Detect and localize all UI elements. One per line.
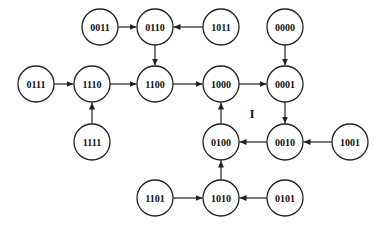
node-label: 0111 xyxy=(27,79,46,90)
state-node-1011: 1011 xyxy=(203,9,239,45)
node-label: 1110 xyxy=(83,79,102,90)
node-label: 0100 xyxy=(211,137,231,148)
node-label: 1101 xyxy=(145,193,164,204)
state-node-1000: 1000 xyxy=(203,66,239,102)
state-node-1101: 1101 xyxy=(137,180,173,216)
state-transition-diagram: 0011011010110000011111101100100000011111… xyxy=(0,0,374,225)
state-node-0110: 0110 xyxy=(137,9,173,45)
state-node-0010: 0010 xyxy=(267,124,303,160)
nodes-group: 0011011010110000011111101100100000011111… xyxy=(18,9,368,216)
node-label: 0000 xyxy=(275,22,295,33)
node-label: 1000 xyxy=(211,79,231,90)
state-node-0000: 0000 xyxy=(267,9,303,45)
node-label: 0010 xyxy=(275,137,295,148)
node-label: 0101 xyxy=(275,193,295,204)
state-node-0011: 0011 xyxy=(82,9,118,45)
annotations-group: I xyxy=(250,107,255,121)
state-node-0001: 0001 xyxy=(267,66,303,102)
annotation-label: I xyxy=(250,107,255,121)
state-node-1111: 1111 xyxy=(74,124,110,160)
state-node-1100: 1100 xyxy=(137,66,173,102)
node-label: 0001 xyxy=(275,79,295,90)
state-node-0111: 0111 xyxy=(18,66,54,102)
state-node-0101: 0101 xyxy=(267,180,303,216)
node-label: 1001 xyxy=(340,137,360,148)
state-node-1010: 1010 xyxy=(203,180,239,216)
state-node-1110: 1110 xyxy=(74,66,110,102)
node-label: 1011 xyxy=(211,22,230,33)
node-label: 0011 xyxy=(90,22,109,33)
node-label: 1010 xyxy=(211,193,231,204)
node-label: 1100 xyxy=(145,79,164,90)
edges-group xyxy=(54,27,332,198)
node-label: 0110 xyxy=(145,22,164,33)
state-node-0100: 0100 xyxy=(203,124,239,160)
node-label: 1111 xyxy=(83,137,101,148)
state-node-1001: 1001 xyxy=(332,124,368,160)
